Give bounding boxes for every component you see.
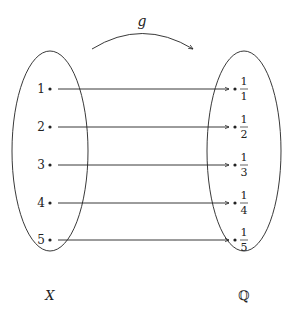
map-arc-arrow xyxy=(92,34,193,50)
domain-element: 4 xyxy=(37,196,45,210)
mapping-row: 5 1 5 xyxy=(37,226,248,254)
fraction-denominator: 4 xyxy=(241,204,248,217)
function-mapping-diagram: g 1 1 1 2 1 2 3 1 3 4 1 xyxy=(0,0,292,317)
domain-element: 2 xyxy=(37,120,45,134)
fraction-denominator: 5 xyxy=(241,241,248,254)
domain-point xyxy=(48,238,51,241)
fraction-numerator: 1 xyxy=(241,75,248,88)
codomain-point xyxy=(233,201,236,204)
codomain-point xyxy=(233,87,236,90)
fraction-numerator: 1 xyxy=(241,189,248,202)
domain-element: 3 xyxy=(37,158,45,172)
codomain-point xyxy=(233,163,236,166)
map-label: g xyxy=(138,13,147,29)
domain-point xyxy=(48,201,51,204)
domain-element: 1 xyxy=(37,82,45,96)
domain-point xyxy=(48,87,51,90)
fraction-numerator: 1 xyxy=(241,113,248,126)
mapping-row: 2 1 2 xyxy=(37,113,248,141)
fraction-numerator: 1 xyxy=(241,151,248,164)
domain-set-label: X xyxy=(44,288,55,303)
fraction-denominator: 1 xyxy=(241,90,248,103)
domain-point xyxy=(48,163,51,166)
domain-element: 5 xyxy=(37,233,45,247)
codomain-point xyxy=(233,238,236,241)
mapping-row: 4 1 4 xyxy=(37,189,248,217)
fraction-numerator: 1 xyxy=(241,226,248,239)
domain-set-ellipse xyxy=(12,51,88,251)
codomain-point xyxy=(233,125,236,128)
domain-point xyxy=(48,125,51,128)
codomain-set-label: ℚ xyxy=(238,288,249,303)
mapping-row: 3 1 3 xyxy=(37,151,248,179)
fraction-denominator: 3 xyxy=(241,166,248,179)
fraction-denominator: 2 xyxy=(241,128,248,141)
mapping-row: 1 1 1 xyxy=(37,75,248,103)
